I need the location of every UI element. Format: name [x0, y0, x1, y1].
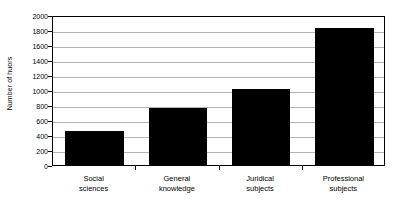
y-axis-title-text: Number of huors	[7, 56, 14, 110]
y-axis-tick-labels: 2000180016001400120010008006004002000	[18, 16, 48, 166]
y-tick-mark	[48, 166, 52, 167]
y-tick-label: 400	[18, 133, 48, 140]
bar[interactable]	[315, 28, 373, 165]
x-tick-mark	[219, 166, 220, 170]
x-axis-label: Professionalsubjects	[302, 174, 385, 194]
bar[interactable]	[65, 131, 123, 165]
y-tick-label: 0	[18, 163, 48, 170]
x-tick-mark	[135, 166, 136, 170]
bars-layer	[53, 17, 384, 165]
bar[interactable]	[232, 89, 290, 166]
x-tick-mark	[302, 166, 303, 170]
x-axis-label: Socialsciences	[52, 174, 135, 194]
x-axis-label: Generalknowledge	[135, 174, 218, 194]
y-tick-label: 600	[18, 118, 48, 125]
y-tick-label: 1200	[18, 73, 48, 80]
bar[interactable]	[149, 108, 207, 165]
y-tick-label: 1600	[18, 43, 48, 50]
x-axis-labels: SocialsciencesGeneralknowledgeJuridicals…	[52, 174, 385, 204]
y-tick-label: 200	[18, 148, 48, 155]
y-tick-label: 1000	[18, 88, 48, 95]
y-tick-label: 800	[18, 103, 48, 110]
bar-chart: Number of huors 200018001600140012001000…	[0, 0, 403, 208]
y-tick-label: 1800	[18, 28, 48, 35]
y-axis-title: Number of huors	[2, 0, 18, 166]
y-tick-label: 1400	[18, 58, 48, 65]
plot-area	[52, 16, 385, 166]
x-axis-label: Juridicalsubjects	[219, 174, 302, 194]
y-tick-label: 2000	[18, 13, 48, 20]
